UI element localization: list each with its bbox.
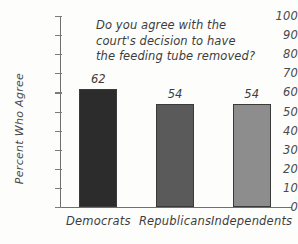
- bar-chart: Percent Who Agree Do you agree with the …: [0, 0, 298, 244]
- y-axis-title: Percent Who Agree: [13, 64, 26, 194]
- bar: [233, 104, 271, 207]
- bar: [79, 89, 117, 207]
- bar-value-label: 62: [68, 72, 128, 86]
- y-axis-tick: [55, 207, 62, 208]
- plot-area: 625454: [60, 16, 290, 207]
- bar-value-label: 54: [222, 87, 282, 101]
- x-axis-category-label: Independents: [197, 214, 298, 228]
- bar-value-label: 54: [145, 87, 205, 101]
- bar: [156, 104, 194, 207]
